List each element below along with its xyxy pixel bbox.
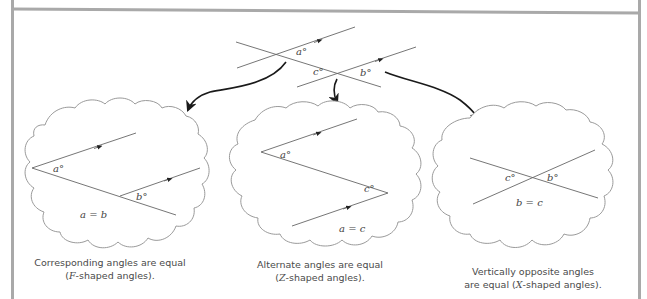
parallel-lines-diagram: a° c° b° a° b° a = b a° c° a = c c° b° b…	[0, 0, 647, 299]
caption-line2: (Z-shaped angles).	[220, 271, 420, 284]
caption-line1: Corresponding angles are equal	[10, 256, 210, 269]
label-a: a°	[280, 149, 291, 160]
label-a: a°	[53, 163, 64, 174]
equation: a = b	[80, 209, 107, 220]
arrow-to-vertically-opposite-icon	[385, 72, 479, 119]
arrow-to-corresponding-icon	[188, 62, 286, 110]
caption-alternate: Alternate angles are equal (Z-shaped ang…	[220, 258, 420, 284]
label-b: b°	[547, 172, 558, 183]
label-b: b°	[360, 67, 371, 78]
caption-line2: (F-shaped angles).	[10, 269, 210, 282]
shape-letter: Z	[279, 272, 286, 283]
frame-top-border	[12, 9, 640, 13]
label-b: b°	[136, 191, 147, 202]
cloud-alternate	[229, 101, 421, 246]
caption-line2: are equal (X-shaped angles).	[433, 278, 633, 291]
shape-letter: F	[69, 270, 76, 281]
label-c: c°	[505, 172, 516, 183]
caption-line1: Vertically opposite angles	[433, 265, 633, 278]
shape-letter: X	[516, 279, 523, 290]
label-c: c°	[313, 66, 324, 77]
arrow-to-alternate-icon	[334, 79, 337, 103]
label-c: c°	[364, 183, 375, 194]
label-a: a°	[296, 46, 307, 57]
equation: a = c	[339, 223, 366, 234]
transversal-line	[236, 42, 381, 87]
caption-corresponding: Corresponding angles are equal (F-shaped…	[10, 256, 210, 282]
caption-line1: Alternate angles are equal	[220, 258, 420, 271]
top-diagram	[236, 27, 416, 87]
caption-vertically-opposite: Vertically opposite angles are equal (X-…	[433, 265, 633, 291]
equation: b = c	[516, 197, 543, 208]
